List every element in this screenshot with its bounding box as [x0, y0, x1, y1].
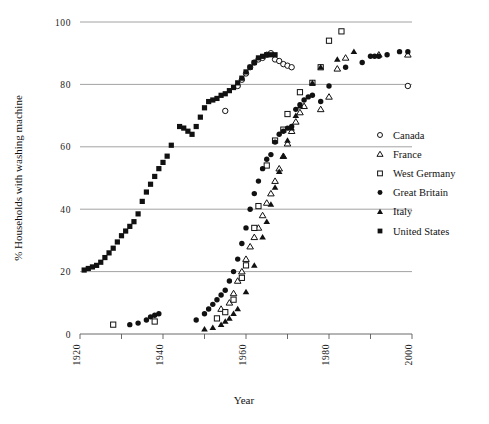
chart-canvas: 020406080100 19201940196019802000 Canada… [0, 0, 489, 424]
y-tick-label-80: 80 [60, 80, 71, 90]
datapoint [339, 29, 344, 34]
washing-machine-adoption-chart: 020406080100 19201940196019802000 Canada… [0, 0, 489, 424]
datapoint [214, 316, 219, 321]
datapoint [189, 132, 194, 137]
datapoint [206, 306, 211, 311]
datapoint [210, 302, 215, 307]
datapoint [259, 234, 266, 240]
x-tick-label-1980: 1980 [321, 344, 331, 365]
series-france [218, 52, 411, 312]
datapoint [243, 225, 248, 230]
datapoint [239, 241, 244, 246]
datapoint [111, 246, 116, 251]
x-axis-group [80, 334, 412, 339]
datapoint [251, 262, 258, 268]
datapoint [243, 263, 248, 268]
datapoint [131, 219, 136, 224]
datapoint [260, 166, 265, 171]
datapoint [127, 322, 132, 327]
datapoint [152, 174, 157, 179]
datapoint [280, 153, 287, 159]
legend-marker-france[interactable] [377, 151, 383, 156]
datapoint [272, 139, 277, 144]
datapoint [218, 292, 223, 297]
legend-marker-canada[interactable] [378, 133, 383, 138]
legend-label-west-germany[interactable]: West Germany [393, 168, 456, 179]
legend-marker-united-states[interactable] [378, 229, 383, 234]
datapoint [376, 54, 381, 59]
legend-label-united-states[interactable]: United States [393, 226, 449, 237]
datapoint [115, 239, 120, 244]
datapoint [234, 306, 241, 312]
datapoint [243, 256, 250, 262]
datapoint [123, 228, 128, 233]
legend-label-canada[interactable]: Canada [393, 130, 425, 141]
datapoint [223, 288, 228, 293]
y-tick-label-20: 20 [60, 267, 71, 277]
datapoint [268, 190, 275, 196]
datapoint [285, 111, 290, 116]
datapoint [397, 49, 402, 54]
datapoint [247, 243, 254, 249]
datapoint [194, 317, 199, 322]
datapoint [223, 310, 228, 315]
y-axis-title: % Households with washing machine [12, 95, 24, 261]
datapoint [202, 311, 207, 316]
datapoint [156, 166, 161, 171]
x-tick-label-1960: 1960 [238, 344, 248, 365]
datapoint [160, 160, 165, 165]
datapoint [297, 90, 302, 95]
datapoint [148, 182, 153, 187]
datapoint [239, 275, 244, 280]
datapoint [243, 69, 248, 74]
datapoint [272, 178, 279, 184]
datapoint [169, 143, 174, 148]
datapoint [231, 85, 236, 90]
datapoint [248, 65, 253, 70]
datapoint [136, 211, 141, 216]
datapoint [326, 83, 331, 88]
datapoint [310, 93, 315, 98]
datapoint [247, 207, 252, 212]
datapoint [140, 199, 145, 204]
y-tick-label-0: 0 [66, 330, 71, 340]
datapoint [210, 325, 217, 331]
y-tick-label-40: 40 [60, 205, 71, 215]
datapoint [231, 269, 236, 274]
legend-label-great-britain[interactable]: Great Britain [393, 187, 449, 198]
datapoint [272, 184, 279, 190]
datapoint [259, 212, 266, 218]
y-tick-label-60: 60 [60, 142, 71, 152]
datapoint [256, 178, 261, 183]
y-tick-labels-group: 020406080100 [55, 18, 71, 340]
legend-marker-italy[interactable] [377, 209, 383, 214]
legend-label-italy[interactable]: Italy [393, 206, 413, 217]
datapoint [202, 105, 207, 110]
legend-marker-west-germany[interactable] [378, 171, 383, 176]
datapoint [252, 191, 257, 196]
legend-label-france[interactable]: France [393, 149, 422, 160]
series-canada [223, 51, 411, 114]
datapoint [194, 124, 199, 129]
datapoint [252, 60, 257, 65]
datapoint [106, 250, 111, 255]
datapoint [318, 99, 323, 104]
legend-marker-great-britain[interactable] [378, 190, 383, 195]
series-great-britain [127, 49, 410, 327]
datapoint [384, 52, 389, 57]
datapoint [252, 225, 257, 230]
datapoint [98, 260, 103, 265]
legend-group: CanadaFranceWest GermanyGreat BritainIta… [377, 130, 456, 237]
datapoint [243, 289, 250, 295]
datapoint [351, 48, 358, 54]
datapoint [268, 152, 273, 157]
datapoint [230, 290, 237, 296]
datapoint [111, 322, 116, 327]
datapoint [284, 137, 291, 143]
datapoint [343, 65, 348, 70]
x-tick-label-1940: 1940 [155, 344, 165, 365]
datapoint [227, 278, 232, 283]
datapoint [231, 297, 236, 302]
datapoint [272, 52, 277, 57]
datapoint [201, 326, 208, 332]
